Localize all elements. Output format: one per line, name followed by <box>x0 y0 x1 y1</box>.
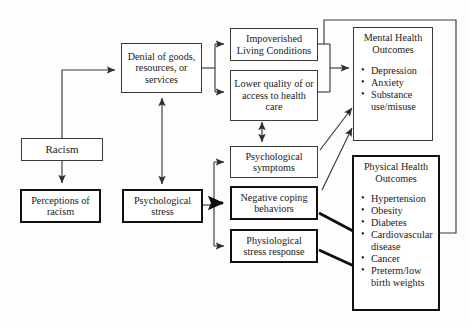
panel-physical-health-outcomes: Physical Health Outcomes • Hypertension … <box>352 155 440 311</box>
mental-health-title-line-1: Outcomes <box>372 44 413 55</box>
mental-health-title-line-0: Mental Health <box>364 32 423 43</box>
node-psych-stress-line-0: Psychological <box>134 195 191 206</box>
list-item-label-cont: use/misuse <box>371 101 432 113</box>
bullet-icon: • <box>361 228 365 240</box>
list-item-label: Hypertension <box>371 193 426 204</box>
node-denial-line-0: Denial of goods, <box>128 51 196 62</box>
list-item-label: Diabetes <box>371 217 407 228</box>
mental-health-title: Mental Health Outcomes <box>354 32 432 55</box>
node-lower-quality-health-care: Lower quality of or access to health car… <box>230 70 318 121</box>
panel-mental-health-outcomes: Mental Health Outcomes • Depression • An… <box>353 27 433 141</box>
node-impoverished-living-conditions: Impoverished Living Conditions <box>230 28 318 61</box>
node-psychological-symptoms: Psychological symptoms <box>230 146 318 178</box>
node-lower-quality-line-1: access to health <box>242 90 306 101</box>
list-item-label: Cardiovascular <box>371 229 433 240</box>
list-item: • Substance use/misuse <box>359 89 432 113</box>
node-denial-line-2: services <box>145 74 178 85</box>
bullet-icon: • <box>361 64 365 76</box>
node-physiological-stress-response: Physiological stress response <box>230 229 318 263</box>
list-item: • Depression <box>359 65 432 77</box>
node-negative-coping-behaviors: Negative coping behaviors <box>230 186 318 220</box>
bullet-icon: • <box>361 216 365 228</box>
node-perceptions-of-racism: Perceptions of racism <box>20 189 101 223</box>
node-lower-quality-line-2: care <box>266 101 283 112</box>
list-item: • Cancer <box>359 253 438 265</box>
physical-health-title-line-0: Physical Health <box>364 161 428 172</box>
list-item-label: Substance <box>371 89 412 100</box>
node-impoverished-line-1: Living Conditions <box>237 45 311 56</box>
node-impoverished-line-0: Impoverished <box>246 33 302 44</box>
bullet-icon: • <box>361 76 365 88</box>
node-psych-symptoms-line-1: symptoms <box>253 162 295 173</box>
list-item: • Obesity <box>359 205 438 217</box>
list-item-label: Preterm/low <box>371 265 421 276</box>
list-item-label-cont: birth weights <box>371 277 438 289</box>
list-item: • Anxiety <box>359 77 432 89</box>
list-item: • Diabetes <box>359 217 438 229</box>
node-negative-coping-line-1: behaviors <box>254 203 294 214</box>
diagram-canvas: Racism Denial of goods, resources, or se… <box>0 0 470 327</box>
physical-health-title: Physical Health Outcomes <box>354 161 438 184</box>
bullet-icon: • <box>361 252 365 264</box>
node-psychological-stress: Psychological stress <box>122 189 203 223</box>
physical-health-list: • Hypertension • Obesity • Diabetes • Ca… <box>354 193 438 289</box>
list-item-label: Depression <box>371 65 417 76</box>
bullet-icon: • <box>361 204 365 216</box>
bullet-icon: • <box>361 88 365 100</box>
list-item: • Cardiovascular disease <box>359 229 438 253</box>
list-item: • Hypertension <box>359 193 438 205</box>
list-item-label: Cancer <box>371 253 400 264</box>
node-perceptions-line-1: racism <box>47 206 74 217</box>
list-item: • Preterm/low birth weights <box>359 265 438 289</box>
node-denial-of-goods: Denial of goods, resources, or services <box>121 43 202 93</box>
node-lower-quality-line-0: Lower quality of or <box>234 78 314 89</box>
node-physiological-line-0: Physiological <box>246 235 301 246</box>
physical-health-title-line-1: Outcomes <box>375 173 416 184</box>
node-perceptions-line-0: Perceptions of <box>31 195 90 206</box>
node-psych-stress-line-1: stress <box>151 206 174 217</box>
mental-health-list: • Depression • Anxiety • Substance use/m… <box>354 65 432 113</box>
node-denial-line-1: resources, or <box>135 62 187 73</box>
node-physiological-line-1: stress response <box>244 246 305 257</box>
list-item-label-cont: disease <box>371 241 438 253</box>
node-racism-line-0: Racism <box>46 143 79 155</box>
bullet-icon: • <box>361 192 365 204</box>
node-negative-coping-line-0: Negative coping <box>240 192 307 203</box>
list-item-label: Obesity <box>371 205 403 216</box>
node-psych-symptoms-line-0: Psychological <box>245 151 302 162</box>
bullet-icon: • <box>361 264 365 276</box>
list-item-label: Anxiety <box>371 77 404 88</box>
node-racism: Racism <box>21 138 103 161</box>
